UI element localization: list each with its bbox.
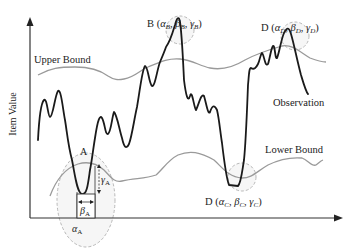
y-axis-label: Item Value: [7, 92, 18, 136]
y-axis-arrow-icon: [27, 17, 34, 26]
point-c-label: D (αC, βC, γC): [205, 196, 262, 209]
observation-label: Observation: [273, 97, 325, 108]
x-axis-arrow-icon: [334, 215, 343, 222]
upper-bound-label: Upper Bound: [34, 54, 92, 65]
point-a-label: A: [80, 146, 88, 157]
anomaly-diagram: Item Value Upper Bound Lower Bound Obser…: [0, 0, 360, 248]
lower-bound-label: Lower Bound: [265, 144, 324, 155]
